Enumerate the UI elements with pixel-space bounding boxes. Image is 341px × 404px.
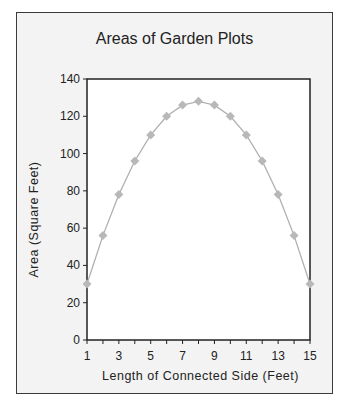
y-tick-label: 100 [60,147,80,161]
y-tick-label: 60 [67,221,81,235]
x-tick-label: 15 [303,349,317,363]
x-tick-label: 1 [84,349,91,363]
y-tick-label: 120 [60,109,80,123]
y-tick-label: 40 [67,258,81,272]
line-chart: 02040608010012014013579111315Length of C… [0,0,341,404]
plot-area [87,79,310,340]
y-tick-label: 80 [67,184,81,198]
x-tick-label: 7 [179,349,186,363]
x-tick-label: 11 [240,349,253,363]
x-tick-label: 13 [271,349,285,363]
x-tick-label: 3 [116,349,123,363]
x-axis-label: Length of Connected Side (Feet) [102,369,299,383]
y-axis-label: Area (Square Feet) [27,162,41,278]
y-tick-label: 0 [73,333,80,347]
y-tick-label: 140 [60,72,80,86]
x-tick-label: 9 [211,349,218,363]
x-tick-label: 5 [147,349,154,363]
y-tick-label: 20 [67,296,81,310]
